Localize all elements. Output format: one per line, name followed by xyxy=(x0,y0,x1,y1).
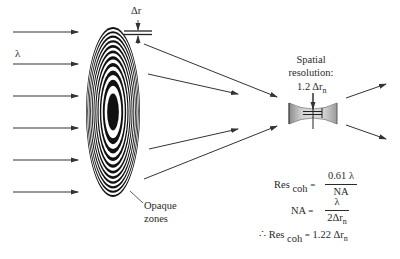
focal-spot xyxy=(289,93,337,129)
formula-na-fraction: λ 2Δrn xyxy=(325,197,349,223)
equals-sign: = xyxy=(305,230,310,240)
spatial-resolution-title-line2: resolution: xyxy=(280,68,342,79)
fraction-bar xyxy=(325,184,357,185)
opaque-zones-leader-line xyxy=(130,191,143,203)
fraction-numerator: 0.61 λ xyxy=(328,171,354,182)
diverging-rays xyxy=(346,84,386,139)
na-text: NA xyxy=(291,205,306,216)
converging-ray xyxy=(149,129,238,149)
fresnel-zone-plate xyxy=(86,27,140,197)
spatial-resolution-value-subscript: n xyxy=(322,86,326,95)
spatial-resolution-title-line1: Spatial xyxy=(280,55,342,66)
formula-na-lhs: NA = xyxy=(291,206,313,217)
diverging-ray xyxy=(346,84,386,98)
converging-rays xyxy=(144,44,277,179)
diverging-ray xyxy=(346,125,386,139)
therefore-symbol: ∴ xyxy=(259,229,266,240)
equals-sign: = xyxy=(308,206,313,216)
spatial-resolution-value-text: 1.2 Δr xyxy=(297,81,322,92)
opaque-label-line2: zones xyxy=(144,214,168,225)
zone-ring xyxy=(107,93,119,130)
fraction-bar xyxy=(325,210,349,211)
converging-ray xyxy=(148,74,238,94)
spatial-resolution-value: 1.2 Δrn xyxy=(297,82,326,93)
wavelength-label: λ xyxy=(15,48,20,59)
delta-r-label: Δr xyxy=(131,6,141,17)
res-text: Res xyxy=(269,229,285,240)
fraction-denominator: 2Δrn xyxy=(327,213,347,224)
equals-sign: = xyxy=(310,180,315,190)
formula-res-coh-lhs: Res coh = xyxy=(274,180,315,191)
result-value: 1.22 Δr xyxy=(313,229,344,240)
converging-ray xyxy=(144,126,277,179)
delta-r-indicator xyxy=(124,20,152,44)
zone-plate-diagram: λ Δr Opaque zones Spatial resolution: 1.… xyxy=(0,0,400,259)
formula-result: ∴ Res coh = 1.22 Δrn xyxy=(259,230,348,241)
res-text: Res xyxy=(274,179,290,190)
converging-ray xyxy=(144,44,277,97)
denominator-subscript: n xyxy=(343,217,347,226)
result-subscript: n xyxy=(344,234,348,243)
opaque-label-line1: Opaque xyxy=(144,201,177,212)
incident-wave-arrows xyxy=(13,32,78,192)
formula-res-coh-fraction: 0.61 λ NA xyxy=(325,171,357,197)
fraction-numerator: λ xyxy=(334,197,339,208)
denominator-text: 2Δr xyxy=(327,212,343,223)
coh-subscript: coh xyxy=(287,233,302,244)
coh-subscript: coh xyxy=(292,183,307,194)
